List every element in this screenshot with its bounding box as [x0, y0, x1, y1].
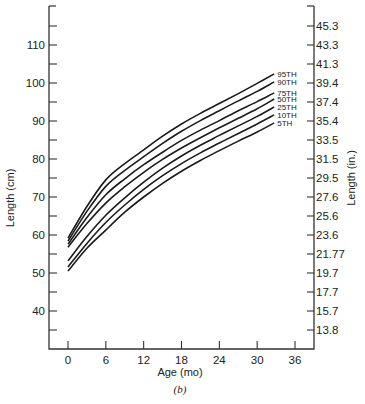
percentile-curve-5th: [68, 123, 274, 271]
right-y-tick-label: 31.5: [316, 153, 338, 165]
right-y-tick-label: 45.3: [316, 20, 338, 32]
right-y-tick-label: 33.5: [316, 134, 338, 146]
x-tick-label: 30: [251, 354, 264, 366]
x-tick-label: 18: [175, 354, 188, 366]
y-tick-label: 110: [27, 39, 45, 51]
y-axis-title-right: Length (in.): [345, 150, 357, 206]
x-tick-label: 24: [213, 354, 226, 366]
percentile-label: 90TH: [277, 78, 297, 87]
y-tick-label: 40: [32, 305, 45, 317]
right-y-axis-ticks: 45.343.341.339.437.435.433.531.529.527.6…: [307, 20, 345, 336]
x-tick-label: 6: [103, 354, 109, 366]
right-y-tick-label: 21.77: [316, 248, 345, 260]
right-y-tick-label: 39.4: [316, 77, 339, 89]
x-tick-label: 12: [137, 354, 150, 366]
percentile-curve-90th: [68, 82, 274, 241]
right-y-tick-label: 41.3: [316, 58, 338, 70]
right-y-tick-label: 25.6: [316, 210, 338, 222]
y-axis-title-left: Length (cm): [4, 169, 16, 228]
percentile-curve-50th: [68, 99, 274, 247]
percentile-labels: 95TH90TH75TH50TH25TH10TH5TH: [277, 70, 297, 128]
right-y-tick-label: 27.6: [316, 191, 338, 203]
y-tick-label: 70: [32, 191, 45, 203]
right-y-tick-label: 15.7: [316, 305, 338, 317]
right-y-tick-label: 35.4: [316, 115, 339, 127]
x-tick-label: 0: [65, 354, 71, 366]
y-tick-label: 90: [32, 115, 45, 127]
right-y-tick-label: 43.3: [316, 39, 338, 51]
axis-frame: [49, 6, 314, 349]
y-tick-label: 100: [26, 77, 45, 89]
right-y-tick-label: 13.8: [316, 324, 338, 336]
right-y-tick-label: 29.5: [316, 172, 338, 184]
right-y-tick-label: 17.7: [316, 286, 338, 298]
x-axis-title: Age (mo): [157, 366, 202, 378]
y-tick-label: 60: [32, 229, 45, 241]
axes: [49, 6, 314, 349]
right-y-tick-label: 37.4: [316, 96, 339, 108]
x-tick-label: 36: [289, 354, 302, 366]
y-tick-label: 50: [32, 267, 45, 279]
percentile-curves: [68, 74, 274, 271]
x-axis-ticks: 061218243036: [65, 341, 302, 366]
right-y-tick-label: 23.6: [316, 229, 338, 241]
growth-chart: 405060708090100110 45.343.341.339.437.43…: [0, 0, 365, 404]
left-y-axis-ticks: 405060708090100110: [26, 26, 57, 330]
percentile-label: 5TH: [277, 119, 292, 128]
y-tick-label: 80: [32, 153, 45, 165]
right-y-tick-label: 19.7: [316, 267, 338, 279]
figure-caption: (b): [174, 383, 187, 396]
